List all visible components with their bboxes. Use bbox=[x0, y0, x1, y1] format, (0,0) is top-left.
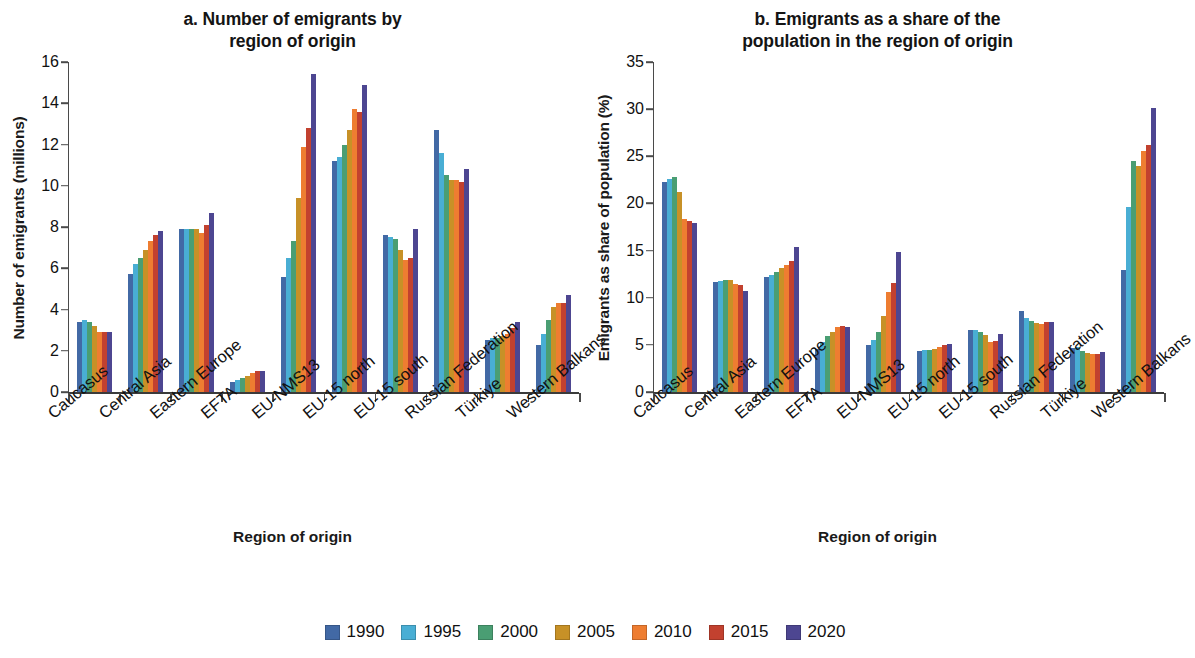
legend-item[interactable]: 1995 bbox=[401, 622, 461, 642]
legend-swatch-icon bbox=[632, 625, 647, 640]
x-tick-mark bbox=[1164, 393, 1166, 402]
y-tick-mark bbox=[61, 350, 68, 352]
bar-group bbox=[756, 62, 807, 392]
bar bbox=[1100, 352, 1105, 392]
legend-swatch-icon bbox=[786, 625, 801, 640]
bar-group bbox=[324, 62, 375, 392]
bar bbox=[311, 74, 316, 392]
panels-container: a. Number of emigrants by region of orig… bbox=[0, 0, 1170, 612]
panel-a-title-line2: region of origin bbox=[0, 30, 585, 52]
legend-label: 2015 bbox=[731, 622, 769, 642]
bar-group bbox=[426, 62, 477, 392]
panel-b: b. Emigrants as a share of the populatio… bbox=[585, 0, 1170, 612]
legend-swatch-icon bbox=[555, 625, 570, 640]
bar bbox=[260, 371, 265, 392]
panel-a-category-labels: CaucasusCentral AsiaEastern EuropeEFTAEU… bbox=[0, 404, 585, 534]
bar-group bbox=[858, 62, 909, 392]
bar bbox=[1151, 108, 1156, 392]
y-tick-mark bbox=[646, 61, 653, 63]
panel-a: a. Number of emigrants by region of orig… bbox=[0, 0, 585, 612]
y-tick-label: 6 bbox=[50, 259, 59, 277]
y-tick-mark bbox=[646, 108, 653, 110]
legend: 1990199520002005201020152020 bbox=[0, 612, 1170, 658]
y-tick-mark bbox=[61, 226, 68, 228]
bar-group bbox=[1113, 62, 1164, 392]
legend-item[interactable]: 2015 bbox=[709, 622, 769, 642]
panel-a-title-line1: a. Number of emigrants by bbox=[0, 8, 585, 30]
bar-group bbox=[120, 62, 171, 392]
y-tick-label: 10 bbox=[626, 289, 644, 307]
panel-b-title-line2: population in the region of origin bbox=[585, 30, 1170, 52]
panel-b-axes: 05101520253035 bbox=[619, 62, 1164, 404]
bar-group bbox=[705, 62, 756, 392]
legend-item[interactable]: 1990 bbox=[325, 622, 385, 642]
y-tick-label: 25 bbox=[626, 147, 644, 165]
panel-a-title: a. Number of emigrants by region of orig… bbox=[0, 0, 585, 52]
bar-group bbox=[1011, 62, 1062, 392]
y-tick-label: 16 bbox=[41, 53, 59, 71]
legend-label: 2020 bbox=[808, 622, 846, 642]
y-tick-label: 2 bbox=[50, 342, 59, 360]
y-tick-label: 20 bbox=[626, 194, 644, 212]
bar bbox=[107, 332, 112, 392]
y-tick-label: 30 bbox=[626, 100, 644, 118]
y-tick-mark bbox=[61, 267, 68, 269]
legend-label: 2010 bbox=[654, 622, 692, 642]
legend-item[interactable]: 2005 bbox=[555, 622, 615, 642]
bar bbox=[845, 327, 850, 392]
y-tick-mark bbox=[61, 309, 68, 311]
panel-a-y-tick-labels: 0246810121416 bbox=[34, 62, 68, 392]
y-tick-label: 15 bbox=[626, 242, 644, 260]
bar-group bbox=[528, 62, 579, 392]
bar-group bbox=[654, 62, 705, 392]
legend-label: 2005 bbox=[577, 622, 615, 642]
legend-item[interactable]: 2000 bbox=[478, 622, 538, 642]
y-tick-label: 12 bbox=[41, 136, 59, 154]
legend-item[interactable]: 2010 bbox=[632, 622, 692, 642]
panel-b-y-axis-title: Emigrants as share of population (%) bbox=[591, 52, 617, 404]
panel-b-y-tick-labels: 05101520253035 bbox=[619, 62, 653, 392]
bar-group bbox=[960, 62, 1011, 392]
y-tick-mark bbox=[646, 203, 653, 205]
y-tick-label: 8 bbox=[50, 218, 59, 236]
bar-group bbox=[171, 62, 222, 392]
legend-swatch-icon bbox=[478, 625, 493, 640]
panel-b-title-line1: b. Emigrants as a share of the bbox=[585, 8, 1170, 30]
bar bbox=[362, 85, 367, 392]
y-tick-mark bbox=[61, 185, 68, 187]
legend-label: 2000 bbox=[500, 622, 538, 642]
legend-swatch-icon bbox=[709, 625, 724, 640]
y-tick-mark bbox=[646, 297, 653, 299]
y-tick-mark bbox=[646, 344, 653, 346]
bar bbox=[692, 223, 697, 392]
y-tick-label: 14 bbox=[41, 94, 59, 112]
legend-swatch-icon bbox=[401, 625, 416, 640]
legend-label: 1995 bbox=[423, 622, 461, 642]
y-tick-label: 4 bbox=[50, 301, 59, 319]
y-tick-label: 5 bbox=[635, 336, 644, 354]
bar-group bbox=[909, 62, 960, 392]
y-tick-mark bbox=[61, 144, 68, 146]
y-tick-label: 35 bbox=[626, 53, 644, 71]
legend-item[interactable]: 2020 bbox=[786, 622, 846, 642]
panel-a-y-axis-title: Number of emigrants (millions) bbox=[6, 52, 32, 404]
legend-swatch-icon bbox=[325, 625, 340, 640]
y-tick-mark bbox=[61, 102, 68, 104]
y-tick-mark bbox=[646, 250, 653, 252]
panel-a-axes: 0246810121416 bbox=[34, 62, 579, 404]
y-tick-mark bbox=[646, 155, 653, 157]
bar-group bbox=[375, 62, 426, 392]
y-tick-label: 10 bbox=[41, 177, 59, 195]
panel-b-category-labels: CaucasusCentral AsiaEastern EuropeEFTAEU… bbox=[585, 404, 1170, 534]
bar-group bbox=[273, 62, 324, 392]
y-tick-mark bbox=[61, 61, 68, 63]
panel-b-title: b. Emigrants as a share of the populatio… bbox=[585, 0, 1170, 52]
bar-group bbox=[69, 62, 120, 392]
legend-label: 1990 bbox=[347, 622, 385, 642]
x-tick-mark bbox=[579, 393, 581, 402]
